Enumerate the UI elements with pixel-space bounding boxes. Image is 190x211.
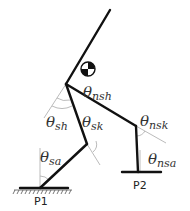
label-theta-nsk: θnsk xyxy=(140,112,169,132)
label-p1: P1 xyxy=(34,195,48,208)
ground-hatch xyxy=(13,190,72,194)
center-of-mass-icon xyxy=(81,62,95,76)
biped-diagram: θnsh θsh θsk θnsk θsa θnsa P1 P2 xyxy=(0,0,190,211)
label-p2: P2 xyxy=(133,179,147,192)
label-theta-sh: θsh xyxy=(46,113,68,133)
swing-shank-link xyxy=(136,126,138,172)
label-theta-nsa: θnsa xyxy=(148,150,176,170)
label-theta-sa: θsa xyxy=(40,148,61,168)
label-theta-nsh: θnsh xyxy=(83,83,112,103)
label-theta-sk: θsk xyxy=(82,113,104,133)
